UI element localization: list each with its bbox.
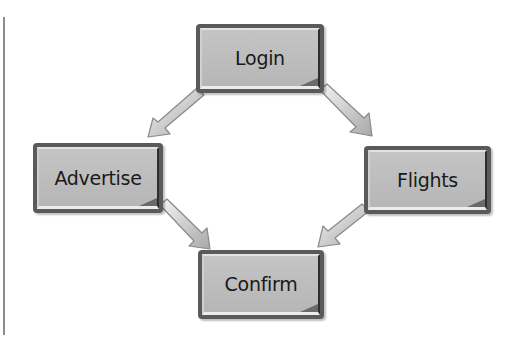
arrow-login-to-advertise-icon <box>148 88 204 137</box>
node-confirm-label: Confirm <box>225 273 298 295</box>
node-confirm-face: Confirm <box>202 254 320 315</box>
node-flights: Flights <box>364 146 491 214</box>
node-login-label: Login <box>235 47 285 69</box>
node-flights-label: Flights <box>397 169 458 191</box>
node-advertise-label: Advertise <box>54 167 141 189</box>
node-login-face: Login <box>200 28 320 89</box>
node-advertise: Advertise <box>33 143 163 213</box>
node-login: Login <box>196 24 324 93</box>
arrow-flights-to-confirm-icon <box>318 204 369 247</box>
arrow-login-to-flights-icon <box>320 84 372 136</box>
arrow-advertise-to-confirm-icon <box>160 199 210 249</box>
node-advertise-face: Advertise <box>37 147 159 209</box>
node-confirm: Confirm <box>198 250 324 319</box>
node-flights-face: Flights <box>368 150 487 210</box>
